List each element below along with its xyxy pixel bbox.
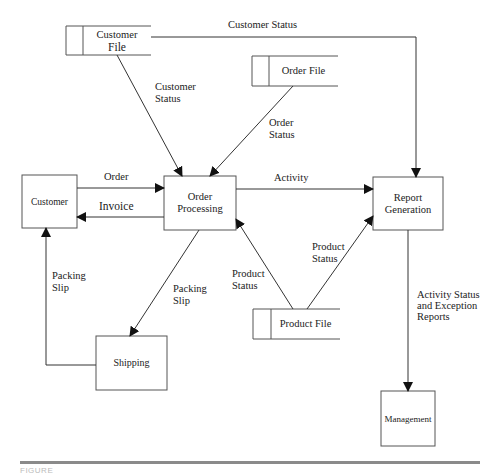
flow-packing-slip-left [46, 228, 96, 365]
customer-entity-label: Customer [22, 175, 77, 228]
management-entity-label: Management [381, 391, 435, 446]
label-packing-slip-right: Packing Slip [173, 283, 207, 307]
label-invoice: Invoice [99, 200, 133, 212]
flow-product-status-left [236, 219, 293, 309]
label-product-status-left: Product Status [232, 268, 265, 292]
label-order-status: Order Status [269, 117, 295, 141]
label-order: Order [104, 171, 129, 183]
order-processing-label: Order Processing [164, 176, 236, 230]
label-packing-slip-left: Packing Slip [52, 270, 86, 294]
customer-file-label: Customer File [83, 26, 151, 55]
label-activity: Activity [274, 172, 308, 184]
label-customer-status: Customer Status [155, 81, 196, 105]
label-product-status-right: Product Status [312, 241, 345, 265]
flow-customer-status [117, 55, 182, 176]
product-file-label: Product File [271, 309, 340, 339]
shipping-entity-label: Shipping [96, 336, 167, 390]
figure-divider-rule [20, 461, 480, 464]
figure-caption: FIGURE [20, 466, 53, 475]
order-file-label: Order File [269, 56, 338, 86]
label-activity-status: Activity Status and Exception Reports [417, 289, 480, 322]
label-customer-status-top: Customer Status [228, 19, 297, 31]
report-generation-label: Report Generation [373, 177, 443, 230]
